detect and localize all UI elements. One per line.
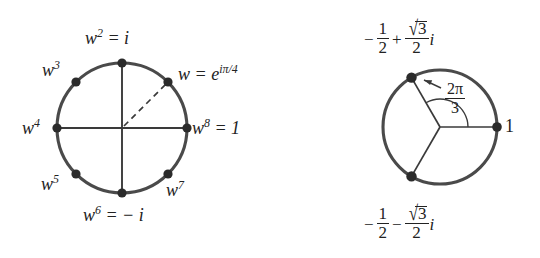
root-dot-w6	[117, 188, 126, 197]
label-w8: w8 = 1	[192, 116, 240, 139]
root-dot-w4	[52, 123, 61, 132]
label-w4: w4	[22, 116, 40, 139]
cube-root-dot-omega	[406, 72, 416, 82]
label-w7: w7	[166, 178, 184, 201]
root-dot-w1	[163, 77, 172, 86]
label-w: w = eiπ/4	[178, 62, 238, 85]
angle-arrow	[424, 80, 441, 88]
label-angle-2pi-over-3: 2π3	[444, 81, 466, 116]
label-w2: w2 = i	[85, 26, 129, 49]
label-w5: w5	[41, 172, 59, 195]
label-w3: w3	[42, 58, 60, 81]
root-dot-w5	[71, 169, 80, 178]
right-circle-group	[383, 70, 502, 184]
label-w6: w6 = − i	[83, 203, 144, 226]
cube-root-dot-1	[492, 122, 502, 132]
root-dot-w3	[71, 77, 80, 86]
radius-240deg	[412, 127, 441, 176]
dashed-radius-w	[124, 82, 168, 126]
root-dot-w8	[182, 123, 191, 132]
roots-of-unity-figure	[0, 0, 540, 258]
cube-root-dot-omega2	[406, 171, 416, 181]
label-omega-top: −12+√32i	[362, 20, 434, 58]
label-omega-bottom: −12−√32i	[362, 205, 434, 243]
root-dot-w2	[117, 58, 126, 67]
label-one: 1	[505, 116, 514, 137]
left-circle-group	[52, 58, 191, 197]
